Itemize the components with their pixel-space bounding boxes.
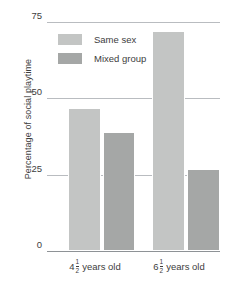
bar-mixed-group-6-5	[187, 169, 220, 251]
legend-swatch-mixed-group-icon	[57, 52, 83, 65]
legend: Same sex Mixed group	[57, 32, 146, 70]
y-axis-title: Percentage of social playtime	[23, 39, 33, 199]
legend-label-same-sex: Same sex	[94, 34, 136, 45]
fraction-numerator-1: 1	[76, 259, 80, 266]
gridline-50	[47, 98, 220, 99]
x-axis-label-group-2: 612years old	[132, 259, 226, 274]
x-label-whole-number-2: 6	[153, 261, 158, 272]
x-label-fraction-1: 12	[76, 259, 80, 274]
x-label-suffix-1: years old	[82, 261, 121, 272]
gridline-75	[47, 22, 220, 23]
y-tick-label-50: 50	[31, 87, 42, 99]
bar-chart: Percentage of social playtime 75 50 25 0…	[0, 0, 240, 284]
x-label-whole-number-1: 4	[69, 261, 74, 272]
x-axis-label-group-1: 412years old	[48, 259, 142, 274]
fraction-numerator-2: 1	[160, 259, 164, 266]
y-tick-label-0: 0	[37, 240, 42, 252]
legend-item-same-sex: Same sex	[57, 32, 146, 46]
x-axis-baseline	[47, 251, 220, 252]
bar-same-sex-6-5	[152, 31, 185, 251]
y-tick-label-75: 75	[31, 11, 42, 23]
bar-mixed-group-4-5	[103, 132, 135, 251]
fraction-denominator-2: 2	[160, 266, 164, 274]
fraction-denominator-1: 2	[76, 266, 80, 274]
legend-item-mixed-group: Mixed group	[57, 51, 146, 65]
x-label-fraction-2: 12	[160, 259, 164, 274]
y-tick-label-25: 25	[31, 163, 42, 175]
legend-swatch-same-sex-icon	[57, 33, 83, 46]
legend-label-mixed-group: Mixed group	[94, 53, 146, 64]
x-label-suffix-2: years old	[166, 261, 205, 272]
bar-same-sex-4-5	[68, 108, 101, 251]
